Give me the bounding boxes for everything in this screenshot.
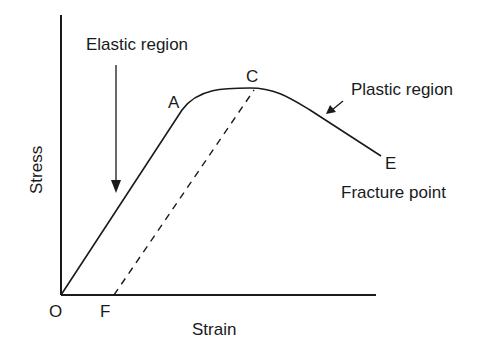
point-f-label: F — [100, 303, 110, 320]
point-o-label: O — [49, 303, 62, 320]
plastic-region-label: Plastic region — [351, 81, 453, 98]
y-axis-label: Stress — [28, 146, 45, 194]
plastic-region-arrow — [332, 101, 343, 110]
elastic-region-label: Elastic region — [86, 36, 188, 53]
elastic-arrow-head-icon — [111, 180, 121, 193]
point-a-label: A — [168, 94, 179, 111]
point-e-label: E — [385, 155, 396, 172]
x-axis-label: Strain — [192, 321, 236, 338]
fracture-point-label: Fracture point — [341, 184, 446, 201]
stress-strain-plot — [0, 0, 497, 354]
stress-strain-curve — [61, 88, 381, 295]
unloading-dashed-line — [114, 90, 254, 295]
plastic-arrow-head-icon — [326, 105, 336, 114]
point-c-label: C — [246, 68, 258, 85]
